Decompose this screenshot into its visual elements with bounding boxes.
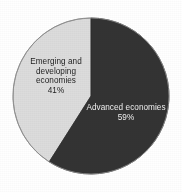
pie-chart: Emerging and developing economies 41% Ad… <box>0 0 182 192</box>
pie-chart-canvas <box>0 0 182 192</box>
